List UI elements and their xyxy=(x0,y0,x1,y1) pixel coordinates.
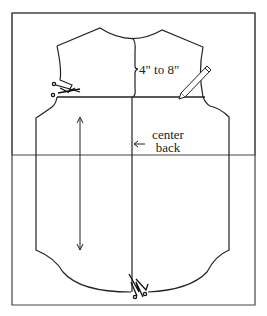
scissors-icon xyxy=(51,82,80,96)
center-back-arrow-icon xyxy=(134,141,145,147)
measure-bracket xyxy=(132,38,138,97)
grainline-arrow-icon xyxy=(77,117,83,250)
center-back-label: center back xyxy=(148,128,188,154)
center-back-label-line2: back xyxy=(148,141,188,154)
body-left-outline xyxy=(36,97,131,292)
yoke-outline xyxy=(57,28,203,97)
diagram-frame: 4" to 8" center back xyxy=(0,0,267,316)
frame-border-top xyxy=(12,13,255,155)
pattern-diagram xyxy=(0,0,267,316)
pencil-icon xyxy=(179,66,211,99)
measurement-label: 4" to 8" xyxy=(139,63,179,76)
frame-border xyxy=(12,13,255,305)
